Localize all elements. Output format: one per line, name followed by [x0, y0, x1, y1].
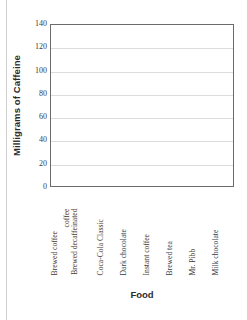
x-label-slot: Coca-Cola Classic	[96, 189, 119, 275]
x-axis-category-label-line: Brewed decaffeinated	[71, 209, 79, 275]
y-tick-label: 40	[23, 136, 47, 144]
y-axis-tick-labels: 140120100806040200	[22, 24, 47, 187]
y-axis-title-text: Milligrams of Caffeine	[11, 55, 22, 156]
bar-slot	[210, 25, 233, 186]
x-axis-category-label: Mr. Pibb	[188, 248, 196, 275]
x-label-slot: Instant coffee	[142, 189, 165, 275]
plot-area	[50, 24, 234, 187]
x-axis-category-label: Brewed coffee	[50, 231, 58, 275]
x-axis-category-label: Dark chocolate	[119, 229, 127, 275]
y-tick-label: 80	[23, 90, 47, 98]
bar-slot	[188, 25, 211, 186]
x-axis-category-label: Instant coffee	[142, 234, 150, 275]
x-axis-title: Food	[50, 289, 234, 300]
x-axis-category-labels: Brewed coffeeBrewed decaffeinatedcoffeeC…	[50, 189, 234, 275]
y-tick-label: 100	[23, 67, 47, 75]
bar-slot	[51, 25, 74, 186]
x-label-slot: Brewed tea	[165, 189, 188, 275]
x-axis-category-label: Coca-Cola Classic	[96, 219, 104, 275]
y-tick-label: 0	[23, 183, 47, 191]
x-axis-category-label: Milk chocolate	[211, 229, 219, 275]
x-label-slot: Mr. Pibb	[188, 189, 211, 275]
bar-slot	[165, 25, 188, 186]
bar-slot	[97, 25, 120, 186]
bar-slot	[119, 25, 142, 186]
y-tick-label: 120	[23, 43, 47, 51]
y-tick-label: 20	[23, 160, 47, 168]
x-label-slot: Milk chocolate	[211, 189, 234, 275]
x-axis-category-label: Brewed decaffeinatedcoffee	[63, 209, 80, 275]
x-label-slot: Brewed decaffeinatedcoffee	[73, 189, 96, 275]
bar-slot	[74, 25, 97, 186]
y-tick-label: 140	[23, 20, 47, 28]
caffeine-bar-chart: Milligrams of Caffeine 14012010080604020…	[0, 0, 247, 320]
x-axis-category-label: Brewed tea	[165, 241, 173, 275]
bar-slot	[142, 25, 165, 186]
bars-layer	[51, 25, 233, 186]
y-tick-label: 60	[23, 113, 47, 121]
x-label-slot: Dark chocolate	[119, 189, 142, 275]
